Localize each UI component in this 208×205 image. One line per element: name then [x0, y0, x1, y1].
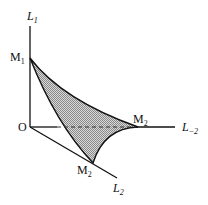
- label-m2-bottom-sub: 2: [88, 170, 92, 179]
- label-m1: M1: [10, 51, 25, 66]
- label-l1: L1: [27, 10, 38, 25]
- label-m2-right-sub: 2: [144, 119, 148, 128]
- label-m1-main: M: [10, 50, 21, 64]
- label-l2-sub: 2: [120, 188, 124, 197]
- label-origin-main: O: [18, 120, 27, 134]
- label-m2-bottom: M2: [77, 164, 92, 179]
- label-m2-right-main: M: [133, 112, 144, 126]
- label-l-minus-2-main: L: [182, 120, 189, 134]
- label-m1-sub: 1: [21, 57, 25, 66]
- label-l-minus-2: L−2: [182, 121, 198, 136]
- label-origin: O: [18, 121, 27, 133]
- label-l-minus-2-sub: −2: [189, 127, 198, 136]
- label-m2-bottom-main: M: [77, 163, 88, 177]
- label-l2: L2: [113, 182, 124, 197]
- label-m2-right: M2: [133, 113, 148, 128]
- label-l1-sub: 1: [34, 16, 38, 25]
- geometry-diagram: [0, 0, 208, 205]
- shaded-region: [30, 58, 138, 163]
- label-l2-main: L: [113, 181, 120, 195]
- label-l1-main: L: [27, 9, 34, 23]
